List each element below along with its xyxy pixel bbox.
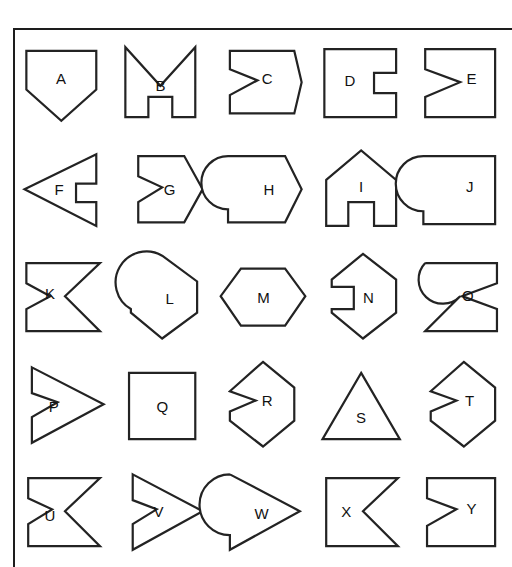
shape-label-u: U (45, 508, 56, 523)
shape-label-layer: P (19, 360, 111, 452)
shape-label-l: L (165, 291, 173, 306)
shape-label-d: D (345, 73, 356, 88)
shape-label-layer: I (317, 145, 409, 237)
shape-label-layer: O (416, 252, 508, 344)
shape-label-layer: B (118, 38, 210, 130)
shape-cell-y[interactable]: Y (413, 460, 512, 567)
shape-label-e: E (466, 71, 476, 86)
shape-label-s: S (356, 409, 366, 424)
shape-cell-m[interactable]: M (214, 245, 313, 352)
shape-cell-h[interactable]: H (214, 137, 313, 244)
shape-label-o: O (462, 287, 474, 302)
shape-label-y: Y (466, 500, 476, 515)
shape-cell-o[interactable]: O (413, 245, 512, 352)
shape-label-q: Q (156, 398, 168, 413)
shape-cell-t[interactable]: T (413, 352, 512, 459)
shape-label-b: B (155, 77, 165, 92)
shape-label-p: P (49, 398, 59, 413)
shape-label-layer: J (416, 145, 508, 237)
shape-label-layer: N (317, 252, 409, 344)
shape-label-i: I (359, 178, 363, 193)
shape-label-layer: Q (118, 360, 210, 452)
shape-label-w: W (255, 506, 269, 521)
shape-label-v: V (154, 504, 164, 519)
shape-label-g: G (164, 182, 176, 197)
shape-label-n: N (363, 289, 374, 304)
shape-cell-n[interactable]: N (313, 245, 412, 352)
shape-cell-l[interactable]: L (114, 245, 213, 352)
shape-grid-page: ABCDEFGHIJKLMNOPQRSTUVWXY (0, 0, 512, 567)
shape-label-layer: Y (416, 467, 508, 559)
shape-label-layer: H (217, 145, 309, 237)
shape-label-layer: K (19, 252, 111, 344)
shape-cell-u[interactable]: U (15, 460, 114, 567)
shape-cell-j[interactable]: J (413, 137, 512, 244)
shape-cell-w[interactable]: W (214, 460, 313, 567)
shape-label-h: H (264, 182, 275, 197)
shape-cell-a[interactable]: A (15, 30, 114, 137)
shape-cell-x[interactable]: X (313, 460, 412, 567)
shape-cell-k[interactable]: K (15, 245, 114, 352)
shape-label-x: X (341, 504, 351, 519)
shape-cell-p[interactable]: P (15, 352, 114, 459)
shape-label-c: C (262, 71, 273, 86)
shape-label-layer: S (317, 360, 409, 452)
shape-cell-b[interactable]: B (114, 30, 213, 137)
shape-label-layer: V (118, 467, 210, 559)
shape-label-layer: R (217, 360, 309, 452)
shape-label-j: J (466, 178, 474, 193)
shape-cell-v[interactable]: V (114, 460, 213, 567)
shape-label-layer: X (317, 467, 409, 559)
shape-cell-f[interactable]: F (15, 137, 114, 244)
shape-label-m: M (257, 289, 270, 304)
shape-label-layer: A (19, 38, 111, 130)
shape-label-layer: D (317, 38, 409, 130)
shape-label-layer: L (118, 252, 210, 344)
shape-cell-d[interactable]: D (313, 30, 412, 137)
shape-cell-q[interactable]: Q (114, 352, 213, 459)
shape-label-k: K (45, 285, 55, 300)
shape-label-layer: C (217, 38, 309, 130)
shape-cell-s[interactable]: S (313, 352, 412, 459)
shape-label-layer: T (416, 360, 508, 452)
shape-label-t: T (465, 393, 474, 408)
shape-label-layer: W (217, 467, 309, 559)
shape-cell-c[interactable]: C (214, 30, 313, 137)
shape-label-layer: E (416, 38, 508, 130)
shape-label-layer: U (19, 467, 111, 559)
shape-label-layer: G (118, 145, 210, 237)
shape-label-f: F (55, 182, 64, 197)
shape-cell-e[interactable]: E (413, 30, 512, 137)
shape-label-layer: M (217, 252, 309, 344)
shape-cell-g[interactable]: G (114, 137, 213, 244)
shape-label-r: R (262, 393, 273, 408)
shape-grid: ABCDEFGHIJKLMNOPQRSTUVWXY (15, 30, 512, 567)
shape-cell-r[interactable]: R (214, 352, 313, 459)
shape-label-layer: F (19, 145, 111, 237)
shape-label-a: A (56, 71, 66, 86)
